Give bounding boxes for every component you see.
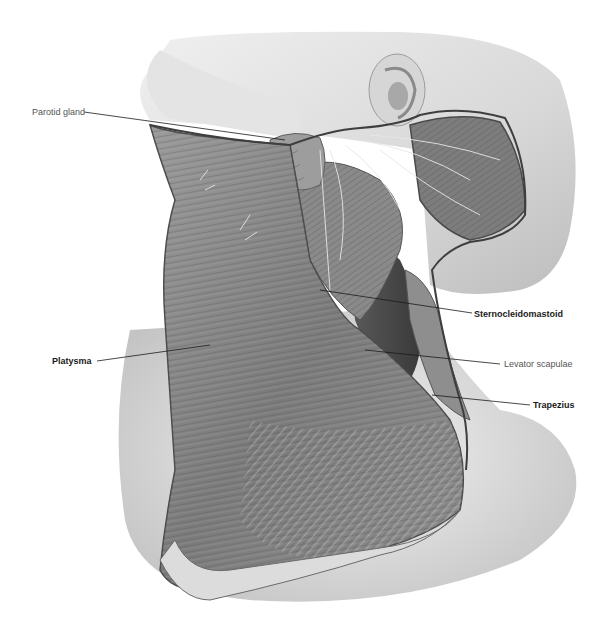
label-parotid-gland: Parotid gland	[32, 108, 85, 117]
label-trapezius: Trapezius	[533, 401, 575, 410]
label-platysma: Platysma	[52, 357, 92, 366]
label-sternocleidomastoid: Sternocleidomastoid	[474, 310, 563, 319]
label-levator-scapulae: Levator scapulae	[504, 360, 573, 369]
ear-icon	[369, 54, 425, 126]
